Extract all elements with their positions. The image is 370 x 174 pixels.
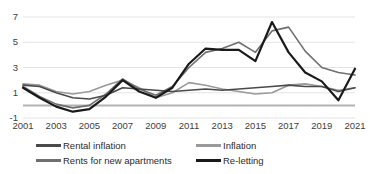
x-tick-label: 2015 bbox=[240, 121, 270, 131]
legend-label-rental-inflation: Rental inflation bbox=[63, 140, 126, 151]
legend-item-inflation[interactable]: Inflation bbox=[196, 139, 256, 152]
legend-item-rental-inflation[interactable]: Rental inflation bbox=[36, 139, 126, 152]
x-tick-label: 2001 bbox=[8, 121, 38, 131]
x-tick-label: 2019 bbox=[307, 121, 337, 131]
series-line-rental-inflation bbox=[23, 85, 355, 99]
x-tick-label: 2003 bbox=[41, 121, 71, 131]
x-tick-label: 2009 bbox=[141, 121, 171, 131]
legend-label-re-letting: Re-letting bbox=[223, 155, 264, 166]
x-tick-label: 2013 bbox=[207, 121, 237, 131]
legend-item-re-letting[interactable]: Re-letting bbox=[196, 154, 264, 167]
legend-swatch-rents-for-new-apartments bbox=[36, 159, 61, 162]
y-tick-label: 3 bbox=[2, 63, 18, 73]
legend-swatch-rental-inflation bbox=[36, 144, 61, 147]
x-tick-label: 2005 bbox=[74, 121, 104, 131]
series-line-inflation bbox=[23, 80, 355, 98]
x-tick-label: 2011 bbox=[174, 121, 204, 131]
y-tick-label: 5 bbox=[2, 37, 18, 47]
x-tick-label: 2007 bbox=[108, 121, 138, 131]
x-tick-label: 2021 bbox=[340, 121, 370, 131]
legend-label-inflation: Inflation bbox=[223, 140, 256, 151]
x-tick-label: 2017 bbox=[274, 121, 304, 131]
legend-swatch-re-letting bbox=[196, 159, 221, 162]
y-tick-label: 7 bbox=[2, 12, 18, 22]
legend-swatch-inflation bbox=[196, 144, 221, 147]
chart-legend: Rental inflation Inflation Rents for new… bbox=[0, 137, 361, 174]
legend-item-rents-for-new-apartments[interactable]: Rents for new apartments bbox=[36, 154, 172, 167]
y-tick-label: 1 bbox=[2, 88, 18, 98]
legend-label-rents-for-new-apartments: Rents for new apartments bbox=[63, 155, 172, 166]
